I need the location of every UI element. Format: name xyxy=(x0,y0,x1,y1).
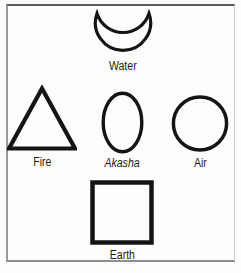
symbol-label: Water xyxy=(109,60,137,72)
symbol-akasha: Akasha xyxy=(101,91,144,169)
symbol-label: Fire xyxy=(33,156,51,168)
diagram-canvas: Water Fire Akasha Air Earth xyxy=(0,0,241,273)
triangle-icon xyxy=(7,85,77,152)
symbol-label: Earth xyxy=(109,249,134,261)
circle-shape xyxy=(173,97,226,150)
symbol-label: Akasha xyxy=(105,157,140,169)
oval-icon xyxy=(101,91,144,154)
crescent-icon xyxy=(92,9,154,54)
symbol-fire: Fire xyxy=(7,85,77,168)
square-icon xyxy=(90,180,154,245)
circle-icon xyxy=(171,94,229,153)
triangle-shape xyxy=(9,89,75,149)
symbol-air: Air xyxy=(171,94,229,169)
square-shape xyxy=(93,183,152,243)
symbol-label: Air xyxy=(194,157,207,169)
symbol-earth: Earth xyxy=(90,180,154,261)
oval-shape xyxy=(103,93,142,152)
symbol-water: Water xyxy=(92,9,154,72)
crescent-shape xyxy=(95,14,150,51)
